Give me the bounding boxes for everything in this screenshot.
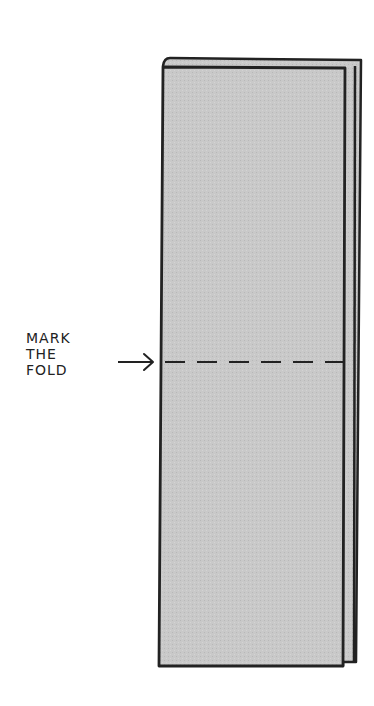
folded-paper-diagram [0,0,374,706]
front-sheet [159,67,345,666]
right-arrow-icon [118,354,153,370]
